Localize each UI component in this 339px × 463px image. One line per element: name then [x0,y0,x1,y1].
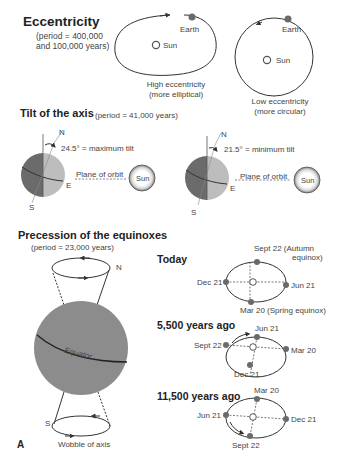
tilt-max-north: N [59,128,65,138]
orbit-5500-left: Sept 22 [194,341,222,351]
sun-icon [263,56,270,63]
figure-label: A [17,439,24,450]
orbit-5500-heading: 5,500 years ago [157,319,235,331]
orbit-today [223,259,289,305]
low-eccentricity-orbit [235,16,313,97]
precession-title: Precession of the equinoxes [18,229,167,241]
high-caption-line1: High eccentricity [136,80,216,90]
orbit-5500-bottom: Dec 21 [234,370,259,380]
low-caption-line1: Low eccentricity [240,97,320,107]
tilt-min-south: S [191,208,196,218]
tilt-title: Tilt of the axis [20,107,94,119]
wobble-label: Wobble of axis [58,440,110,450]
low-earth-label: Earth [282,25,301,35]
precession-globe [34,258,128,436]
precession-period: (period = 23,000 years) [31,243,114,253]
orbit-5500-right: Mar 20 [291,346,316,356]
tilt-min-orbit: Plane of orbit [240,172,287,182]
tilt-period: (period = 41,000 years) [95,111,178,121]
tilt-min-globe [184,133,320,205]
eccentricity-title: Eccentricity [23,14,100,29]
high-sun-label: Sun [163,41,177,51]
tilt-min-angle: 21.5° = minimum tilt [224,145,295,155]
precession-south: S [45,419,50,429]
tilt-max-south: S [29,203,34,213]
low-sun-label: Sun [276,56,290,66]
eccentricity-period-line1: (period = 400,000 [36,31,103,41]
high-caption-line2: (more elliptical) [136,90,216,100]
tilt-max-orbit: Plane of orbit [76,170,123,180]
orbit-11500-top: Mar 20 [254,386,279,396]
orbit-11500-bottom: Sept 22 [232,441,260,451]
orbit-today-bottom: Mar 20 (Spring equinox) [240,306,326,316]
low-caption-line2: (more circular) [240,107,320,117]
sun-icon [152,41,159,48]
high-earth-label: Earth [180,25,199,35]
orbit-11500-heading: 11,500 years ago [157,390,240,402]
orbit-today-heading: Today [157,253,187,265]
eccentricity-period-line2: and 100,000 years) [36,41,109,51]
earth-icon [285,16,292,23]
tilt-max-sun-label: Sun [136,174,149,184]
orbit-today-left: Dec 21 [197,278,222,288]
tilt-max-globe [20,130,155,203]
tilt-max-equator: E [66,181,71,191]
orbit-11500-left: Jun 21 [197,411,221,421]
orbit-5500-top: Jun 21 [255,324,279,334]
tilt-max-angle: 24.5° = maximum tilt [61,144,134,154]
earth-icon [189,14,196,21]
precession-north: N [116,263,122,273]
tilt-min-equator: E [230,184,235,194]
orbit-11500 [223,396,289,439]
tilt-min-north: N [221,130,227,140]
orbit-today-right: Jun 21 [291,281,315,291]
orbit-11500-right: Dec 21 [291,415,316,425]
orbit-today-top2: equinox) [292,253,323,263]
tilt-min-sun-label: Sun [301,176,314,186]
